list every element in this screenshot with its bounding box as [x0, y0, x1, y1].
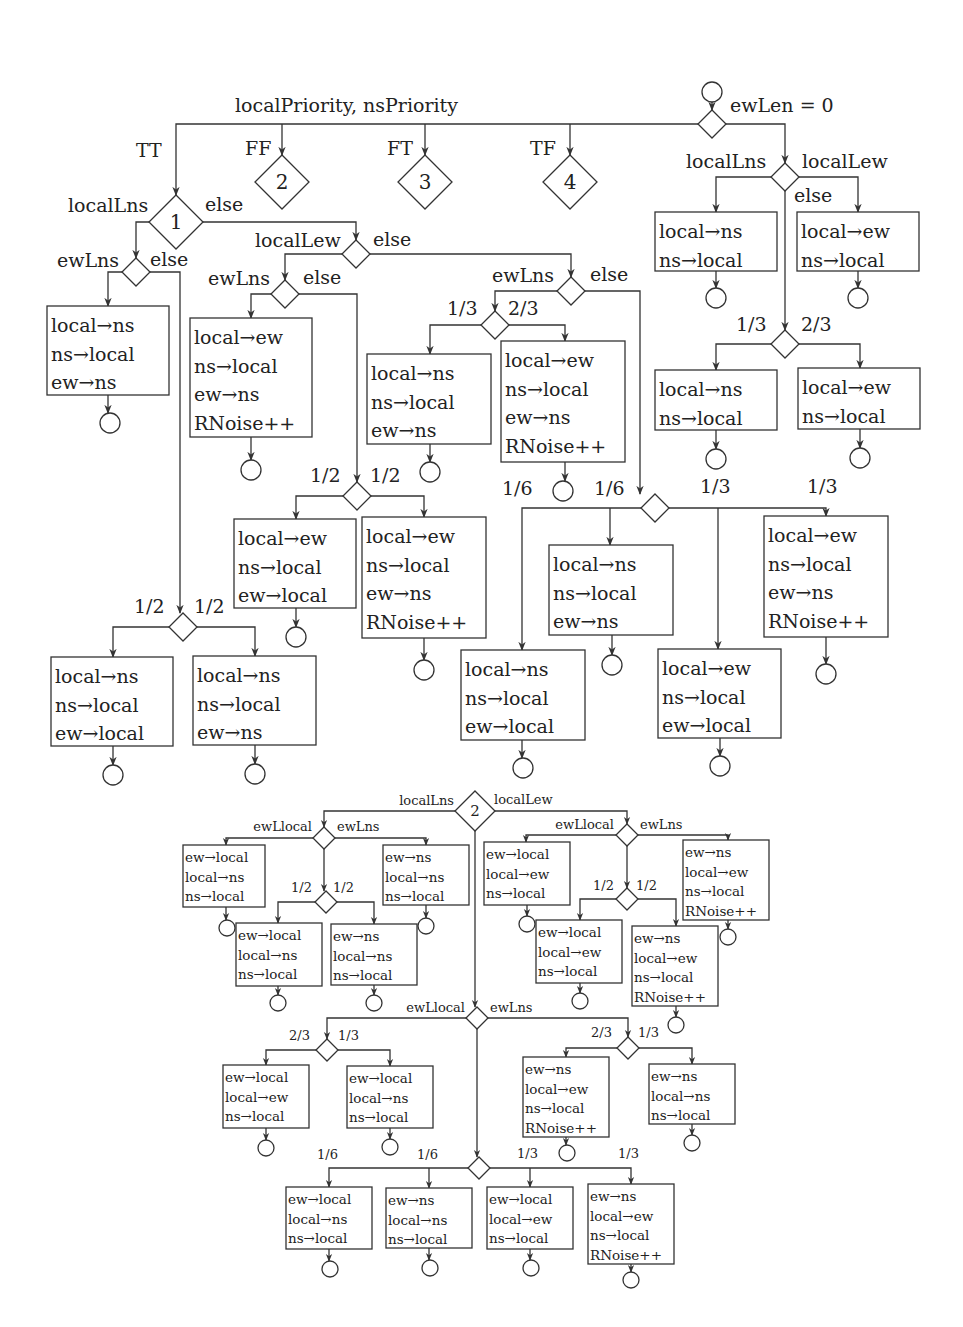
decision-diamond [557, 277, 585, 305]
action-line: ns→local [349, 1109, 408, 1125]
branch-label: 1/2 [636, 878, 657, 893]
action-line: ew→ns [651, 1068, 698, 1084]
terminal-node [219, 920, 235, 936]
branch-label: localLew [802, 150, 888, 172]
terminal-node [816, 664, 836, 684]
flow-arrow [638, 835, 728, 840]
branch-label: 1/2 [291, 880, 312, 895]
branch-label: 2/3 [508, 297, 539, 319]
branch-label: else [303, 266, 341, 288]
branch-label: ewLns [640, 817, 683, 832]
branch-label: ewLen = 0 [730, 94, 834, 116]
action-line: ew→local [662, 714, 751, 736]
branch-label: 1/2 [134, 595, 165, 617]
action-line: ew→local [238, 927, 301, 943]
action-line: local→ew [225, 1089, 289, 1105]
branch-label: else [590, 263, 628, 285]
branch-label: ewLlocal [253, 819, 312, 834]
decision-diamond [169, 613, 197, 641]
action-line: ew→ns [685, 844, 732, 860]
terminal-node [684, 1135, 700, 1151]
action-line: ns→local [385, 888, 444, 904]
branch-label: 1/3 [517, 1146, 538, 1161]
action-line: ew→local [185, 849, 248, 865]
branch-label: 1/3 [447, 297, 478, 319]
terminal-node [623, 1272, 639, 1288]
decision-diamond [468, 1157, 490, 1179]
action-line: local→ns [238, 947, 297, 963]
terminal-node [245, 764, 265, 784]
action-line: local→ew [194, 326, 284, 348]
action-line: local→ns [659, 220, 742, 242]
branch-label: 2/3 [801, 313, 832, 335]
action-line: ns→local [590, 1227, 649, 1243]
branch-label: ewLns [337, 819, 380, 834]
action-line: ns→local [553, 582, 636, 604]
terminal-node [706, 449, 726, 469]
action-line: ns→local [194, 355, 277, 377]
action-line: ew→local [55, 722, 144, 744]
branch-label: 2/3 [289, 1028, 310, 1043]
action-line: ns→local [388, 1231, 447, 1247]
action-line: ns→local [486, 885, 545, 901]
terminal-node [710, 756, 730, 776]
action-line: ns→local [659, 407, 742, 429]
action-line: local→ns [651, 1088, 710, 1104]
flow-arrow [509, 325, 565, 341]
decision-number: 2 [276, 170, 289, 194]
branch-label: localLew [494, 792, 553, 807]
branch-label: 1/2 [194, 595, 225, 617]
branch-label: localLew [255, 229, 341, 251]
branch-label: localPriority, nsPriority [235, 94, 458, 116]
action-line: local→ns [288, 1211, 347, 1227]
action-line: RNoise++ [768, 610, 869, 632]
branch-label: else [373, 228, 411, 250]
terminal-node [422, 1260, 438, 1276]
action-line: ew→local [238, 584, 327, 606]
branch-label: ewLns [208, 267, 270, 289]
action-line: ns→local [801, 249, 884, 271]
branch-label: 2/3 [591, 1025, 612, 1040]
decision-diamond [342, 240, 370, 268]
branch-label: 1/3 [638, 1025, 659, 1040]
terminal-node [668, 1017, 684, 1033]
action-line: ew→ns [768, 581, 833, 603]
action-line: ew→local [465, 715, 554, 737]
action-line: local→ew [662, 657, 752, 679]
branch-label: else [150, 248, 188, 270]
decision-number: 2 [470, 802, 480, 820]
action-line: ew→ns [634, 930, 681, 946]
flow-arrow [371, 496, 424, 517]
decision-diamond [122, 258, 150, 286]
terminal-node [523, 1260, 539, 1276]
flow-arrow [329, 1168, 468, 1187]
action-line: ns→local [225, 1108, 284, 1124]
terminal-node [286, 627, 306, 647]
branch-label: 1/6 [417, 1147, 438, 1162]
terminal-node [382, 1139, 398, 1155]
flow-arrow [278, 902, 315, 923]
terminal-node [559, 1145, 575, 1161]
flow-arrow [197, 627, 255, 656]
action-line: ns→local [366, 554, 449, 576]
flow-arrow [251, 294, 271, 318]
branch-label: localLns [68, 194, 148, 216]
branch-label: TF [530, 137, 556, 159]
action-line: ns→local [288, 1230, 347, 1246]
branch-label: 1/6 [317, 1147, 338, 1162]
action-line: ew→local [225, 1069, 288, 1085]
terminal-node [848, 288, 868, 308]
action-line: ew→local [288, 1191, 351, 1207]
terminal-node [706, 288, 726, 308]
action-line: ew→ns [590, 1188, 637, 1204]
action-line: ns→local [55, 694, 138, 716]
branch-label: ewLns [57, 249, 119, 271]
terminal-node [100, 413, 120, 433]
action-line: ns→local [634, 969, 693, 985]
terminal-node [414, 660, 434, 680]
decision-diamond [641, 494, 669, 522]
action-line: ns→local [768, 553, 851, 575]
action-line: ns→local [685, 883, 744, 899]
action-line: RNoise++ [525, 1120, 597, 1136]
decision-diamond [313, 827, 335, 849]
